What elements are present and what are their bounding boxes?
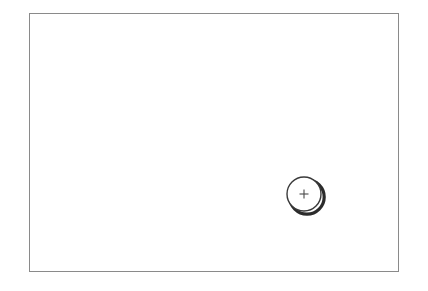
scene-stage <box>0 0 428 291</box>
canvas-frame[interactable] <box>29 13 399 272</box>
circle-plus-icon <box>283 173 328 218</box>
point-marker[interactable] <box>283 173 328 218</box>
